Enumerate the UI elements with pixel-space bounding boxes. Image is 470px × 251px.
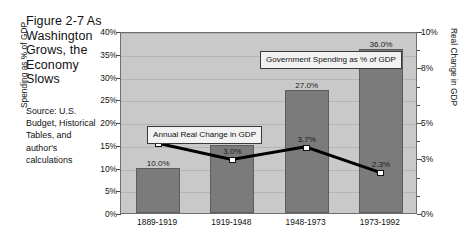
x-axis-tick-label: 1889-1919 bbox=[120, 217, 194, 227]
line-marker bbox=[229, 157, 236, 163]
x-axis-tick-label: 1919-1948 bbox=[194, 217, 268, 227]
y-axis-right-tick-mark bbox=[417, 123, 422, 124]
callout-gov-spending: Government Spending as % of GDP bbox=[260, 51, 402, 69]
y-axis-left-title: Spending as % of GDP bbox=[19, 5, 29, 125]
x-axis-tick-label: 1973-1992 bbox=[343, 217, 417, 227]
y-axis-right-tick-mark bbox=[417, 32, 422, 33]
x-axis-tick-labels: 1889-19191919-19481948-19731973-1992 bbox=[120, 217, 417, 231]
bar-value-label: 10.0% bbox=[128, 159, 188, 168]
y-axis-right-tick-label: 10% bbox=[421, 27, 438, 37]
line-value-label: 3.7% bbox=[277, 135, 337, 144]
y-axis-right-tick-mark bbox=[417, 214, 422, 215]
bar-value-label: 27.0% bbox=[277, 81, 337, 90]
y-axis-right-tick-mark bbox=[417, 159, 422, 160]
y-axis-left-tick-labels: 0%5%10%15%20%25%30%35%40% bbox=[92, 32, 117, 214]
line-value-label: 2.3% bbox=[351, 160, 411, 169]
line-value-label: 3.0% bbox=[202, 147, 262, 156]
y-axis-right-tick-mark bbox=[417, 105, 420, 106]
y-axis-right-tick-labels: 0%3%5%8%10% bbox=[421, 32, 449, 214]
y-axis-right-tick-mark bbox=[417, 178, 420, 179]
bar-value-label: 36.0% bbox=[351, 40, 411, 49]
figure-container: Figure 2-7 As Washington Grows, the Econ… bbox=[0, 0, 470, 251]
callout-gdp-change: Annual Real Change in GDP bbox=[147, 126, 262, 144]
y-axis-right-tick-mark bbox=[417, 50, 420, 51]
y-axis-right-title: Real Change in GDP bbox=[449, 7, 459, 127]
line-path bbox=[158, 143, 379, 172]
y-axis-left-tick-mark bbox=[116, 214, 121, 215]
y-axis-right-tick-mark bbox=[417, 196, 420, 197]
x-axis-tick-label: 1948-1973 bbox=[269, 217, 343, 227]
line-marker bbox=[303, 145, 310, 151]
y-axis-right-tick-mark bbox=[417, 68, 422, 69]
y-axis-right-tick-mark bbox=[417, 87, 420, 88]
plot-area: 3.9%3.0%3.7%2.3% 10.0%15.0%27.0%36.0% An… bbox=[120, 32, 417, 214]
y-axis-right-ticks bbox=[417, 32, 423, 214]
y-axis-right-tick-mark bbox=[417, 141, 420, 142]
line-marker bbox=[377, 170, 384, 176]
